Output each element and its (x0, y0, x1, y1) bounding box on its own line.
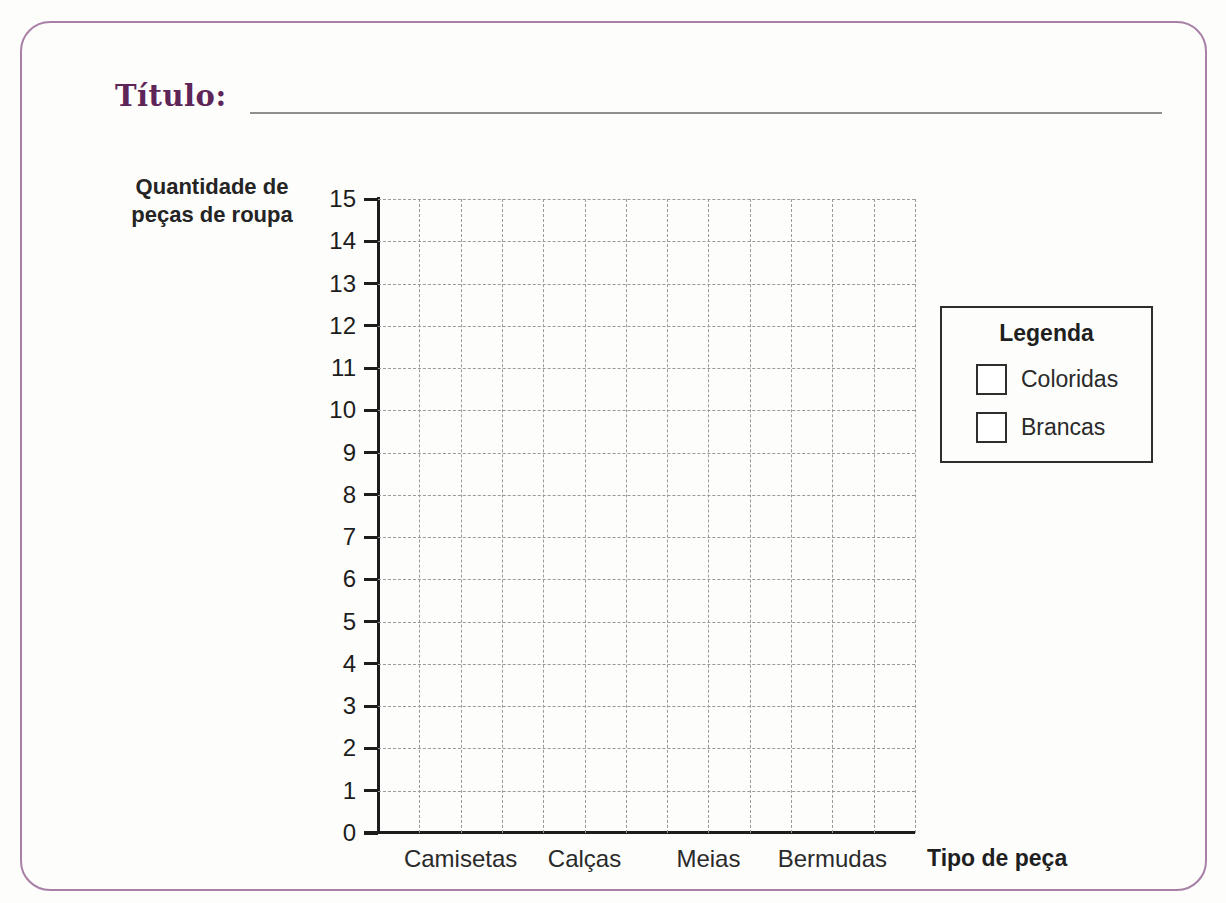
x-category-label: Calças (520, 845, 650, 873)
y-gridline (378, 579, 915, 580)
x-gridline (626, 199, 627, 833)
y-axis-tick (364, 832, 378, 835)
y-gridline (378, 622, 915, 623)
y-axis-tick (364, 578, 378, 581)
y-axis-tick (364, 536, 378, 539)
y-gridline (378, 706, 915, 707)
legend-item-coloridas: Coloridas (976, 363, 1151, 395)
y-axis-tick (364, 324, 378, 327)
y-axis-tick (364, 493, 378, 496)
x-gridline (791, 199, 792, 833)
legend-item-brancas: Brancas (976, 411, 1151, 443)
y-gridline (378, 495, 915, 496)
y-gridline (378, 199, 915, 200)
x-gridline (419, 199, 420, 833)
y-gridline (378, 748, 915, 749)
title-label: Título: (115, 79, 227, 113)
legend-title: Legenda (942, 320, 1151, 347)
y-tick-label: 15 (308, 185, 356, 213)
y-tick-label: 10 (308, 396, 356, 424)
y-tick-label: 12 (308, 312, 356, 340)
y-axis-tick (364, 451, 378, 454)
x-gridline (461, 199, 462, 833)
y-gridline (378, 453, 915, 454)
y-tick-label: 11 (308, 354, 356, 382)
y-tick-label: 0 (308, 819, 356, 847)
y-tick-label: 1 (308, 777, 356, 805)
title-blank-line[interactable] (250, 112, 1162, 114)
y-gridline (378, 326, 915, 327)
x-axis-title: Tipo de peça (927, 845, 1067, 872)
y-gridline (378, 368, 915, 369)
y-axis-title-line2: peças de roupa (117, 201, 307, 229)
y-gridline (378, 537, 915, 538)
y-axis-tick (364, 282, 378, 285)
y-gridline (378, 241, 915, 242)
x-gridline (502, 199, 503, 833)
legend-swatch-empty-square-icon (976, 364, 1007, 395)
y-tick-label: 6 (308, 565, 356, 593)
chart-plot-area: 0123456789101112131415CamisetasCalçasMei… (378, 199, 915, 833)
x-gridline (874, 199, 875, 833)
y-gridline (378, 791, 915, 792)
y-axis-line (377, 197, 380, 833)
y-tick-label: 14 (308, 227, 356, 255)
y-tick-label: 13 (308, 270, 356, 298)
x-gridline (832, 199, 833, 833)
legend-box: Legenda Coloridas Brancas (940, 306, 1153, 463)
x-category-label: Meias (643, 845, 773, 873)
legend-item-label: Coloridas (1021, 366, 1118, 393)
legend-swatch-empty-square-icon (976, 412, 1007, 443)
y-axis-tick (364, 198, 378, 201)
y-tick-label: 2 (308, 734, 356, 762)
legend-item-label: Brancas (1021, 414, 1105, 441)
y-axis-tick (364, 705, 378, 708)
y-axis-tick (364, 662, 378, 665)
y-axis-title: Quantidade de peças de roupa (117, 173, 307, 229)
y-gridline (378, 664, 915, 665)
y-tick-label: 4 (308, 650, 356, 678)
y-axis-tick (364, 367, 378, 370)
x-category-label: Camisetas (396, 845, 526, 873)
y-gridline (378, 410, 915, 411)
y-tick-label: 8 (308, 481, 356, 509)
y-axis-tick (364, 789, 378, 792)
x-gridline (750, 199, 751, 833)
y-tick-label: 9 (308, 439, 356, 467)
y-tick-label: 7 (308, 523, 356, 551)
y-gridline (378, 284, 915, 285)
x-gridline (667, 199, 668, 833)
x-category-label: Bermudas (767, 845, 897, 873)
x-gridline (708, 199, 709, 833)
x-gridline (543, 199, 544, 833)
y-axis-tick (364, 620, 378, 623)
worksheet-frame: Título: Quantidade de peças de roupa 012… (20, 21, 1207, 891)
y-axis-tick (364, 240, 378, 243)
y-axis-tick (364, 747, 378, 750)
x-gridline (585, 199, 586, 833)
x-gridline (915, 199, 916, 833)
y-tick-label: 5 (308, 608, 356, 636)
y-tick-label: 3 (308, 692, 356, 720)
y-axis-tick (364, 409, 378, 412)
y-axis-title-line1: Quantidade de (117, 173, 307, 201)
